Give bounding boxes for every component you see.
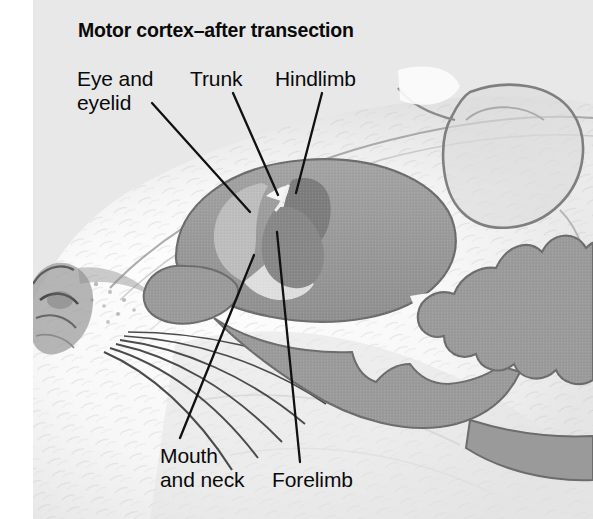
label-mouth-and-neck: Mouth and neck [160, 444, 244, 492]
label-eye-and-eyelid: Eye and eyelid [77, 67, 153, 115]
label-forelimb: Forelimb [272, 468, 353, 492]
label-trunk: Trunk [190, 67, 242, 91]
figure-title: Motor cortex–after transection [78, 19, 354, 42]
figure-motor-cortex-after-transection: Motor cortex–after transection Eye and e… [0, 0, 593, 519]
label-hindlimb: Hindlimb [275, 67, 356, 91]
nostril [47, 291, 73, 309]
